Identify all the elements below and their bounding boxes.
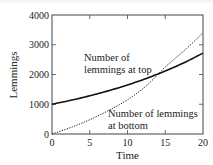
y-tick-label: 4000 — [29, 10, 49, 21]
line-chart: 0 5 10 15 20 0 1000 2000 3000 4000 Time … — [0, 0, 213, 165]
y-tick-label: 3000 — [29, 39, 49, 50]
annotation-bottom-line1: Number of lemmings — [108, 108, 198, 119]
y-tick-labels: 0 1000 2000 3000 4000 — [29, 10, 49, 140]
annotation-bottom: Number of lemmings at bottom — [108, 108, 198, 131]
y-tick-label: 0 — [44, 129, 49, 140]
annotation-top-line1: Number of — [84, 52, 130, 63]
y-tick-label: 2000 — [29, 69, 49, 80]
y-tick-label: 1000 — [29, 99, 49, 110]
x-axis-title: Time — [116, 149, 139, 161]
x-tick-label: 0 — [50, 137, 55, 148]
annotation-top: Number of lemmings at top — [84, 52, 152, 75]
y-axis-title: Lemmings — [7, 51, 19, 98]
x-tick-label: 5 — [87, 137, 92, 148]
annotation-bottom-line2: at bottom — [108, 120, 148, 131]
x-tick-label: 10 — [123, 137, 133, 148]
x-tick-labels: 0 5 10 15 20 — [50, 137, 209, 148]
x-tick-label: 20 — [198, 137, 208, 148]
x-tick-label: 15 — [160, 137, 170, 148]
annotation-top-line2: lemmings at top — [84, 64, 152, 75]
